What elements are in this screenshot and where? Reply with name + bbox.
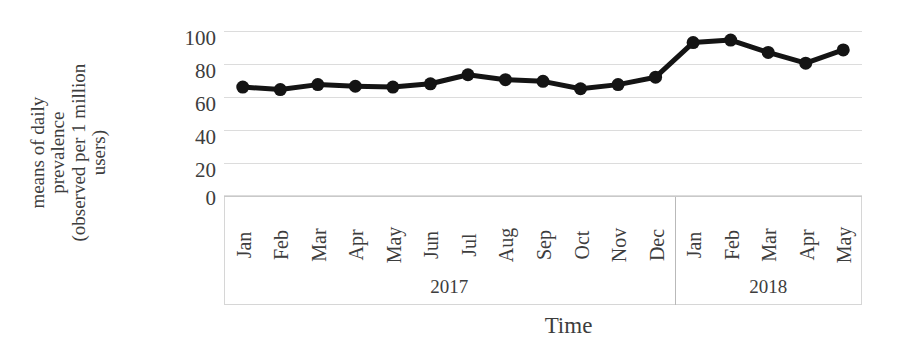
x-axis-title: Time [0, 313, 901, 339]
month-tick-mar-2: Mar [300, 197, 338, 305]
month-tick-feb-1: Feb [263, 197, 301, 305]
month-tick-may-4: May [375, 197, 413, 305]
month-tick-jan-0: Jan [225, 197, 263, 305]
data-point [649, 71, 662, 84]
y-axis-title-line-1: means of daily [28, 38, 48, 268]
data-series-line [224, 31, 862, 196]
month-tick-aug-7: Aug [488, 197, 526, 305]
data-point [386, 81, 399, 94]
data-point [311, 78, 324, 91]
data-point [424, 77, 437, 90]
y-axis-title: means of daily prevalence (observed per … [28, 38, 109, 268]
data-point [537, 75, 550, 88]
y-axis-title-line-4: users) [89, 38, 109, 268]
data-point [612, 78, 625, 91]
y-tick-80: 80 [152, 61, 216, 82]
month-label: May [834, 227, 854, 264]
y-tick-40: 40 [152, 127, 216, 148]
line-chart: means of daily prevalence (observed per … [0, 0, 901, 354]
month-tick-nov-10: Nov [600, 197, 638, 305]
y-tick-20: 20 [152, 160, 216, 181]
y-tick-60: 60 [152, 94, 216, 115]
month-label: Feb [271, 230, 291, 260]
data-point [762, 46, 775, 59]
month-label: Jun [421, 231, 441, 259]
month-label: Apr [346, 229, 366, 260]
data-point [349, 80, 362, 93]
y-tick-0: 0 [152, 188, 216, 209]
month-tick-apr-15: Apr [788, 197, 826, 305]
data-point [724, 34, 737, 47]
month-label: Dec [647, 229, 667, 261]
data-point [687, 36, 700, 49]
month-label: Mar [309, 228, 329, 261]
month-label: Feb [722, 230, 742, 260]
month-tick-may-16: May [825, 197, 863, 305]
month-label: Jan [684, 232, 704, 259]
month-label: Mar [759, 228, 779, 261]
plot-area [224, 31, 862, 196]
data-point [799, 57, 812, 70]
x-axis-title-text: Time [545, 313, 593, 338]
month-label: Oct [572, 231, 592, 260]
data-point [236, 81, 249, 94]
month-label: Apr [797, 229, 817, 260]
month-label: Jan [234, 232, 254, 259]
y-tick-100: 100 [152, 28, 216, 49]
month-label: Jul [459, 233, 479, 256]
year-label-2018: 2018 [749, 277, 787, 296]
data-point [837, 43, 850, 56]
month-label: Aug [496, 228, 516, 262]
data-point [461, 68, 474, 81]
month-label: May [384, 227, 404, 264]
month-tick-oct-9: Oct [563, 197, 601, 305]
month-tick-dec-11: Dec [638, 197, 676, 305]
y-axis-tick-labels: 100 80 60 40 20 0 [152, 0, 216, 354]
year-group-divider [675, 197, 676, 305]
data-point [274, 83, 287, 96]
month-tick-apr-3: Apr [338, 197, 376, 305]
month-label: Nov [609, 228, 629, 262]
y-axis-title-line-3: (observed per 1 million [69, 38, 89, 268]
month-tick-sep-8: Sep [525, 197, 563, 305]
month-label: Sep [534, 230, 554, 260]
year-label-2017: 2017 [430, 277, 468, 296]
data-point [499, 73, 512, 86]
y-axis-title-line-2: prevalence [49, 38, 69, 268]
month-tick-jan-12: Jan [675, 197, 713, 305]
month-tick-feb-13: Feb [713, 197, 751, 305]
data-point [574, 82, 587, 95]
